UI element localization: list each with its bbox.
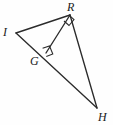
vertex-label-R: R <box>67 1 74 13</box>
segment-RH <box>70 15 97 108</box>
geometry-canvas <box>0 0 113 125</box>
vertex-label-G: G <box>30 55 39 67</box>
geometry-figure: I R G H <box>0 0 113 125</box>
segment-IR <box>16 15 70 33</box>
vertex-label-I: I <box>3 26 7 38</box>
segment-IH <box>16 33 97 108</box>
vertex-label-H: H <box>98 111 107 123</box>
